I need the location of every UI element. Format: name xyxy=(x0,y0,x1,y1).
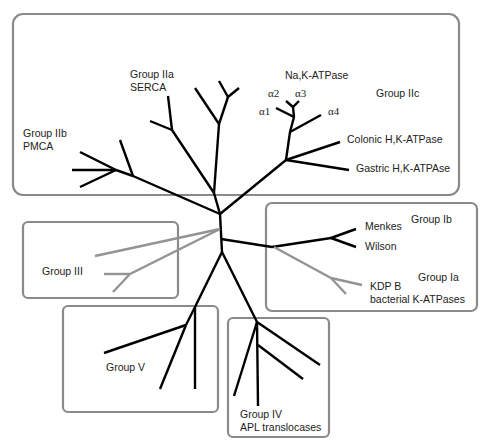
label-nak-atpase: Na,K-ATPase xyxy=(285,69,349,81)
branches-group-I xyxy=(221,229,362,294)
label-group-IIc: Group IIc xyxy=(376,87,419,99)
branches-group-IV xyxy=(222,252,320,406)
branches-group-III xyxy=(95,229,220,292)
label-group-V: Group V xyxy=(106,361,145,373)
label-group-III: Group III xyxy=(42,265,83,277)
label-group-IV: Group IV xyxy=(240,408,282,420)
label-group-IIb: Group IIb xyxy=(23,127,67,139)
label-gastric: Gastric H,K-ATPAse xyxy=(356,162,450,174)
label-apl-translocases: APL translocases xyxy=(240,421,321,433)
label-kdp-b: KDP B xyxy=(370,280,401,292)
label-colonic: Colonic H,K-ATPase xyxy=(347,133,443,145)
label-alpha4: α4 xyxy=(328,105,340,117)
tree-trunk xyxy=(220,214,222,252)
label-wilson: Wilson xyxy=(365,240,397,252)
label-group-Ia: Group Ia xyxy=(418,271,459,283)
label-alpha2: α2 xyxy=(268,87,279,99)
label-group-IIa: Group IIa xyxy=(130,68,174,80)
label-menkes: Menkes xyxy=(365,220,402,232)
label-alpha3: α3 xyxy=(295,87,307,99)
box-group-III xyxy=(23,222,178,298)
label-alpha1: α1 xyxy=(259,105,270,117)
phylogenetic-tree: Group IIa SERCA Group IIb PMCA Na,K-ATPa… xyxy=(0,0,486,445)
label-group-Ib: Group Ib xyxy=(411,213,452,225)
label-serca: SERCA xyxy=(130,81,166,93)
label-pmca: PMCA xyxy=(23,140,53,152)
label-bacterial-k-atpases: bacterial K-ATPases xyxy=(370,293,465,305)
